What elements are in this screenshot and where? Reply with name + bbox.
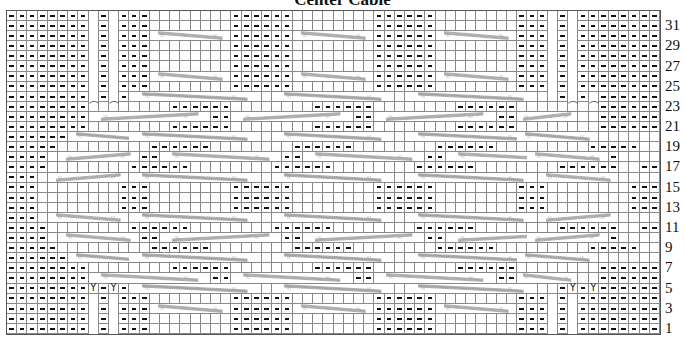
no-stitch — [548, 51, 558, 61]
svg-text:\\\: \\\ — [421, 94, 426, 99]
purl-stitch — [446, 243, 456, 253]
purl-stitch — [78, 31, 88, 41]
purl-stitch — [609, 304, 619, 314]
knit-stitch — [507, 11, 517, 21]
knit-stitch — [221, 21, 231, 31]
purl-stitch — [38, 51, 48, 61]
purl-stitch — [609, 51, 619, 61]
purl-stitch — [211, 112, 221, 122]
purl-stitch — [17, 284, 27, 294]
purl-stitch — [640, 304, 650, 314]
chart-row-21 — [7, 122, 660, 132]
purl-stitch — [589, 304, 599, 314]
purl-stitch — [415, 41, 425, 51]
knit-stitch — [436, 61, 446, 71]
svg-text:///: /// — [508, 286, 513, 291]
purl-stitch — [344, 243, 354, 253]
purl-stitch — [78, 122, 88, 132]
purl-stitch — [629, 61, 639, 71]
knit-stitch — [578, 193, 588, 203]
knit-stitch — [354, 324, 364, 334]
purl-stitch — [354, 102, 364, 112]
knit-stitch — [385, 263, 395, 273]
purl-stitch — [425, 82, 435, 92]
knit-stitch — [497, 11, 507, 21]
cable-cross-icon: \\\/// — [129, 253, 262, 263]
purl-stitch — [38, 273, 48, 283]
knit-stitch — [476, 223, 486, 233]
no-stitch — [89, 31, 99, 41]
knit-stitch — [364, 183, 374, 193]
cable-cross-icon: \\\/// — [436, 72, 518, 82]
purl-stitch — [27, 92, 37, 102]
purl-stitch — [140, 11, 150, 21]
knit-stitch — [170, 294, 180, 304]
knit-stitch — [242, 122, 252, 132]
increase-stitch — [89, 284, 99, 294]
knit-stitch — [221, 324, 231, 334]
purl-stitch — [293, 142, 303, 152]
purl-stitch — [7, 31, 17, 41]
purl-stitch — [629, 82, 639, 92]
purl-stitch — [538, 314, 548, 324]
svg-text:///: /// — [564, 114, 569, 119]
knit-stitch — [303, 314, 313, 324]
purl-stitch — [619, 243, 629, 253]
svg-text:\\\: \\\ — [145, 215, 150, 220]
knit-stitch — [191, 294, 201, 304]
purl-stitch — [313, 162, 323, 172]
purl-stitch — [385, 41, 395, 51]
svg-text:\\\: \\\ — [524, 114, 529, 119]
purl-stitch — [415, 314, 425, 324]
purl-stitch — [48, 72, 58, 82]
purl-stitch — [68, 314, 78, 324]
cable-cross-icon: \\\/// — [129, 132, 262, 142]
purl-stitch — [599, 41, 609, 51]
no-stitch — [109, 324, 119, 334]
svg-text:///: /// — [232, 256, 237, 261]
purl-stitch — [140, 294, 150, 304]
purl-stitch — [619, 11, 629, 21]
purl-stitch — [558, 324, 568, 334]
svg-text:///: /// — [508, 94, 513, 99]
knit-stitch — [211, 21, 221, 31]
purl-stitch — [17, 152, 27, 162]
purl-stitch — [38, 314, 48, 324]
purl-stitch — [466, 223, 476, 233]
purl-stitch — [374, 82, 384, 92]
knit-stitch — [599, 183, 609, 193]
no-stitch — [568, 294, 578, 304]
purl-stitch — [476, 263, 486, 273]
svg-text:///: /// — [183, 114, 188, 119]
chart-row-23 — [7, 102, 660, 112]
purl-stitch — [272, 294, 282, 304]
knit-stitch — [282, 243, 292, 253]
purl-stitch — [578, 92, 588, 102]
knit-stitch — [364, 314, 374, 324]
purl-stitch — [517, 41, 527, 51]
purl-stitch — [456, 102, 466, 112]
purl-stitch — [140, 152, 150, 162]
knit-stitch — [109, 193, 119, 203]
knit-stitch — [476, 162, 486, 172]
purl-stitch — [609, 263, 619, 273]
purl-stitch — [7, 173, 17, 183]
cable-cross-icon: \\\/// — [272, 253, 394, 263]
knit-stitch — [344, 162, 354, 172]
purl-stitch — [119, 92, 129, 102]
purl-stitch — [415, 304, 425, 314]
cable-cross-icon: \\\/// — [272, 213, 394, 223]
knit-stitch — [313, 11, 323, 21]
svg-text:///: /// — [600, 175, 605, 180]
purl-stitch — [27, 233, 37, 243]
purl-stitch — [650, 122, 660, 132]
purl-stitch — [517, 21, 527, 31]
purl-stitch — [425, 21, 435, 31]
purl-stitch — [303, 243, 313, 253]
purl-stitch — [558, 162, 568, 172]
knit-stitch — [191, 223, 201, 233]
purl-stitch — [629, 72, 639, 82]
purl-stitch — [17, 294, 27, 304]
knit-stitch — [150, 11, 160, 21]
purl-stitch — [415, 72, 425, 82]
